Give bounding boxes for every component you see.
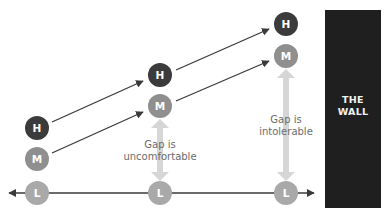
node-high-3: H <box>274 12 298 36</box>
gap-diagram: Gap is uncomfortable Gap is intolerable … <box>0 0 388 216</box>
node-low-2: L <box>148 181 172 205</box>
wall-label: THE WALL <box>338 94 369 118</box>
arrow-high-1-to-2 <box>52 81 143 122</box>
gap-label-uncomfortable: Gap is uncomfortable <box>120 139 200 163</box>
node-high-2: H <box>148 63 172 87</box>
node-medium-3: M <box>274 44 298 68</box>
wall-label-line1: THE <box>338 94 369 106</box>
wall-label-line2: WALL <box>338 106 369 118</box>
gap-label-intolerable-line2: intolerable <box>251 126 321 138</box>
gap-label-intolerable: Gap is intolerable <box>251 114 321 138</box>
gap-label-uncomfortable-line2: uncomfortable <box>120 151 200 163</box>
gap-label-uncomfortable-line1: Gap is <box>120 139 200 151</box>
arrow-high-2-to-3 <box>176 29 269 70</box>
arrow-medium-2-to-3 <box>176 61 269 101</box>
the-wall: THE WALL <box>325 10 381 208</box>
node-low-1: L <box>25 181 49 205</box>
node-medium-2: M <box>148 94 172 118</box>
node-medium-1: M <box>25 147 49 171</box>
node-low-3: L <box>274 181 298 205</box>
node-high-1: H <box>25 116 49 140</box>
gap-label-intolerable-line1: Gap is <box>251 114 321 126</box>
